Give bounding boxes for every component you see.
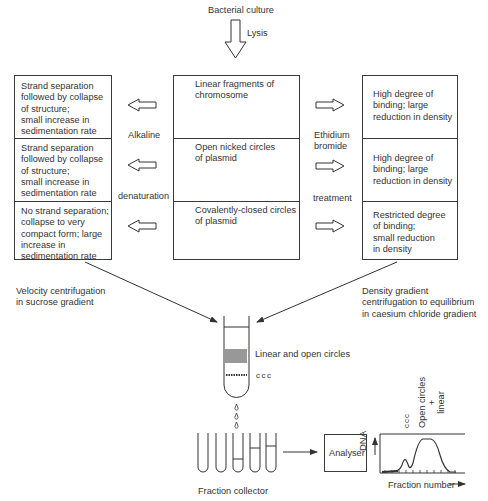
velocity-method-label: Velocity centrifugation in sucrose gradi… bbox=[16, 286, 105, 309]
fraction-collector-tubes-icon bbox=[198, 433, 276, 472]
right-outcome-ccc: Restricted degree of binding; small redu… bbox=[363, 201, 457, 260]
right-outcome-open-circle: High degree of binding; large reduction … bbox=[363, 138, 457, 201]
band-lower-label: ccc bbox=[256, 370, 273, 381]
form-open-circles: Open nicked circles of plasmid bbox=[174, 138, 299, 201]
density-method-label: Density gradient centrifugation to equil… bbox=[362, 286, 476, 320]
denaturation-label: denaturation bbox=[118, 191, 169, 202]
band-upper-label: Linear and open circles bbox=[255, 349, 350, 360]
dna-forms-box: Linear fragments of chromosome Open nick… bbox=[173, 75, 300, 260]
left-outcome-open-circle: Strand separation followed by collapse o… bbox=[15, 138, 111, 201]
lysis-label: Lysis bbox=[247, 28, 268, 39]
form-linear-fragments: Linear fragments of chromosome bbox=[174, 76, 299, 138]
alkaline-label: Alkaline bbox=[128, 130, 160, 141]
peak-ccc-label: ccc bbox=[401, 413, 412, 428]
centrifuge-tube-icon bbox=[224, 316, 249, 398]
source-label: Bacterial culture bbox=[208, 5, 274, 16]
graph-x-label: Fraction number bbox=[388, 480, 455, 491]
form-covalently-closed: Covalently-closed circles of plasmid bbox=[174, 201, 299, 260]
peak-open-linear-label: Open circles + linear bbox=[418, 377, 447, 428]
graph-y-label: DNA bbox=[357, 431, 368, 451]
ethidium-bromide-label: Ethidium bromide bbox=[314, 130, 350, 153]
drop-icons bbox=[235, 404, 238, 428]
left-outcome-box: Strand separation followed by collapse o… bbox=[14, 75, 112, 260]
fraction-collector-label: Fraction collector bbox=[198, 486, 268, 497]
left-outcome-ccc: No strand separation; collapse to very c… bbox=[15, 201, 111, 260]
dna-profile-graph bbox=[375, 434, 465, 484]
lysis-arrow-icon bbox=[225, 20, 246, 58]
treatment-label: treatment bbox=[313, 193, 352, 204]
right-arrow-icons bbox=[316, 99, 344, 232]
right-outcome-linear: High degree of binding; large reduction … bbox=[363, 76, 457, 138]
left-outcome-linear: Strand separation followed by collapse o… bbox=[15, 76, 111, 138]
left-arrow-icons bbox=[128, 99, 156, 232]
right-outcome-box: High degree of binding; large reduction … bbox=[362, 75, 458, 260]
